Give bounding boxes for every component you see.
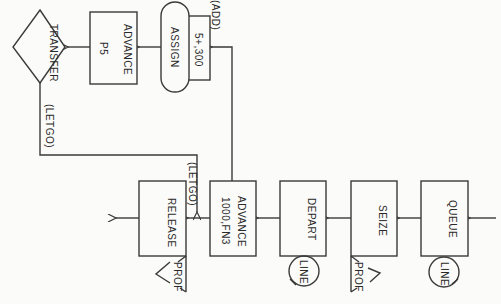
depart-label: DEPART: [306, 198, 317, 241]
advance-p5-block: ADVANCE P5: [90, 12, 137, 84]
advance-fn3-block: ADVANCE 1000,FN3: [210, 181, 256, 256]
queue-block: QUEUE: [421, 181, 468, 256]
queue-line-label: LINE: [439, 262, 450, 286]
depart-line-circle: LINE: [289, 256, 319, 286]
seize-block: SEIZE: [351, 181, 397, 256]
assign-label: ASSIGN: [169, 27, 180, 68]
release-prof-label: PROF: [172, 262, 183, 292]
gpss-block-diagram: QUEUE LINE SEIZE PROF DEPART LINE ADVANC…: [0, 0, 501, 304]
assign-operand-box: 5+,300: [188, 16, 210, 80]
advance-p5-label: ADVANCE: [122, 24, 133, 75]
seize-label: SEIZE: [377, 205, 388, 236]
advance-fn3-label: ADVANCE: [236, 196, 247, 247]
release-block: RELEASE: [139, 181, 186, 256]
assign-annotation: (ADD): [210, 0, 221, 30]
advance-p5-operand: P5: [98, 42, 109, 55]
release-letgo-label: (LETGO): [187, 162, 198, 206]
transfer-letgo-label: (LETGO): [44, 104, 55, 148]
advance-fn3-operand: 1000,FN3: [220, 197, 231, 245]
depart-line-label: LINE: [298, 260, 309, 284]
release-prof-triangle: PROF: [156, 256, 186, 292]
seize-prof-label: PROF: [353, 262, 364, 292]
transfer-label: TRANSFER: [48, 24, 59, 82]
feed-to-assign-line: [212, 47, 232, 181]
release-label: RELEASE: [166, 198, 177, 248]
depart-block: DEPART: [280, 181, 326, 256]
queue-line-circle: LINE: [429, 257, 459, 287]
assign-operand: 5+,300: [193, 33, 204, 67]
queue-label: QUEUE: [447, 200, 458, 238]
seize-prof-triangle: PROF: [351, 256, 380, 292]
assign-block: ASSIGN: [161, 2, 189, 92]
transfer-block: TRANSFER: [13, 10, 65, 83]
